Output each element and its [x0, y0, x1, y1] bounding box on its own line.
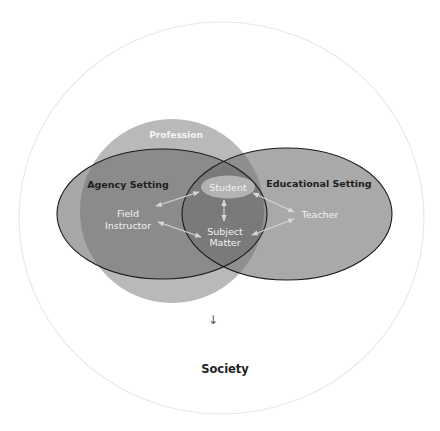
- student-label: Student: [209, 182, 247, 193]
- relationship-diagram: Profession Agency Setting Educational Se…: [0, 0, 440, 431]
- subject-matter-label-line2: Matter: [209, 237, 240, 248]
- field-instructor-label-line1: Field: [117, 208, 139, 219]
- educational-setting-label: Educational Setting: [266, 178, 371, 189]
- down-arrow-icon: ↓: [208, 313, 218, 327]
- field-instructor-label-line2: Instructor: [105, 220, 151, 231]
- teacher-label: Teacher: [301, 209, 339, 220]
- subject-matter-label-line1: Subject: [207, 226, 243, 237]
- agency-setting-label: Agency Setting: [87, 179, 169, 190]
- profession-label: Profession: [149, 130, 203, 140]
- society-label: Society: [201, 362, 249, 376]
